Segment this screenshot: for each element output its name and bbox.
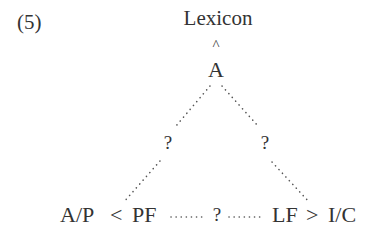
question-left: ?	[164, 133, 172, 152]
question-right: ?	[261, 133, 269, 152]
dotted-line-lower-right	[272, 162, 310, 203]
ic-system-label: I/C	[328, 204, 356, 226]
lf-label: LF	[272, 204, 298, 226]
greater-than-symbol: >	[306, 204, 318, 226]
dotted-line-upper-left	[176, 86, 210, 126]
dotted-line-lower-left	[123, 161, 160, 203]
question-middle: ?	[213, 205, 221, 224]
less-than-symbol: <	[110, 204, 122, 226]
dotted-line-upper-right	[222, 86, 258, 126]
ap-system-label: A/P	[60, 204, 94, 226]
pf-label: PF	[132, 204, 156, 226]
